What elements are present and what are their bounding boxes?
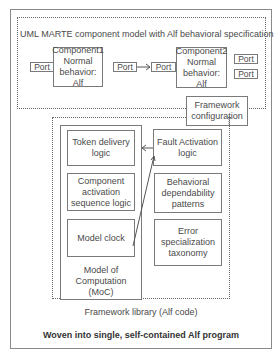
port-connection-arrow	[137, 64, 150, 70]
connector-arrows	[0, 0, 280, 357]
clock-to-fault-arrow	[133, 156, 155, 246]
fault-to-moc-arrow	[142, 145, 153, 151]
